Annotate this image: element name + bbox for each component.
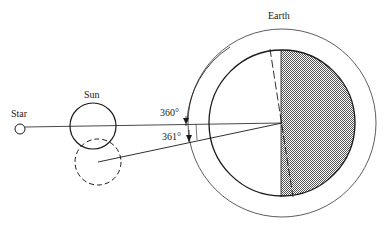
earth-label: Earth bbox=[268, 10, 290, 21]
angle-361-label: 361° bbox=[162, 131, 181, 142]
sidereal-solar-day-diagram: Star Sun 360° 361° Earth bbox=[0, 0, 385, 226]
angle-361-extension bbox=[196, 124, 197, 140]
star-circle bbox=[15, 124, 25, 134]
sun-line bbox=[98, 123, 282, 162]
star-label: Star bbox=[11, 108, 28, 119]
sun-label: Sun bbox=[84, 89, 100, 100]
angle-360-arc bbox=[187, 47, 230, 122]
angle-360-label: 360° bbox=[160, 107, 179, 118]
earth-night-side bbox=[281, 45, 361, 205]
angle-361-arrow-icon bbox=[186, 135, 192, 142]
star-line bbox=[25, 123, 282, 127]
